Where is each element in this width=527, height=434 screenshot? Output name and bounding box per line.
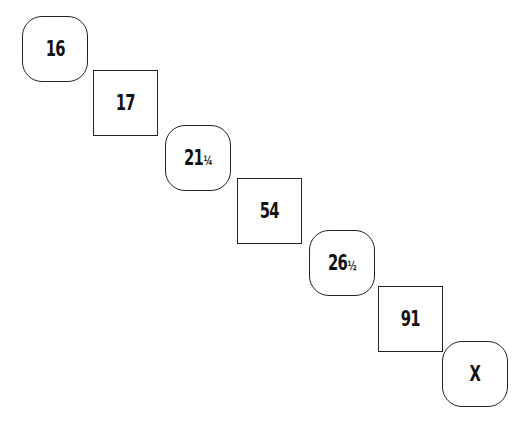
value-fraction: ¼ — [203, 154, 212, 168]
value-fraction: ½ — [347, 259, 356, 273]
sequence-box-unknown: X — [442, 341, 508, 407]
sequence-value: 16 — [46, 37, 65, 61]
value-whole: 16 — [46, 37, 65, 61]
sequence-value: 17 — [116, 91, 135, 115]
unknown-value: X — [470, 362, 481, 386]
value-whole: 26 — [328, 251, 347, 275]
sequence-value: 54 — [260, 199, 279, 223]
value-whole: 54 — [260, 199, 279, 223]
value-whole: X — [470, 362, 481, 386]
sequence-box-6: 91 — [378, 286, 443, 352]
value-whole: 91 — [401, 307, 420, 331]
value-whole: 17 — [116, 91, 135, 115]
sequence-value: 21¼ — [184, 146, 212, 170]
sequence-box-2: 17 — [93, 70, 158, 136]
sequence-box-3: 21¼ — [165, 125, 231, 191]
sequence-box-5: 26½ — [309, 230, 375, 296]
sequence-value: 26½ — [328, 251, 356, 275]
sequence-box-1: 16 — [22, 16, 88, 82]
sequence-value: 91 — [401, 307, 420, 331]
value-whole: 21 — [184, 146, 203, 170]
sequence-box-4: 54 — [237, 178, 302, 244]
